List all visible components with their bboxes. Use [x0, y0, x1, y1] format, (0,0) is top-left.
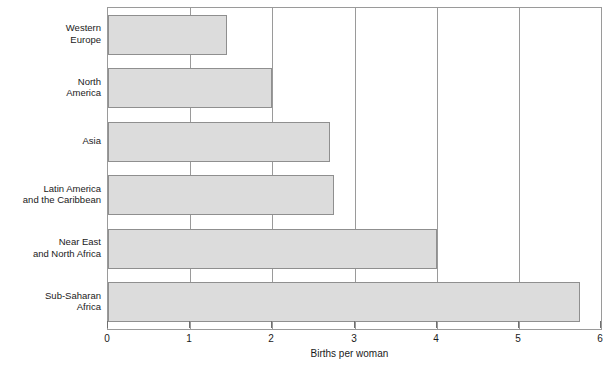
plot-inner — [108, 8, 601, 329]
category-label-asia: Asia — [0, 135, 101, 147]
bar — [108, 15, 227, 55]
x-axis-tick-label: 6 — [585, 333, 614, 345]
gridline — [437, 8, 438, 329]
bar — [108, 282, 580, 322]
x-axis-tick-label: 1 — [174, 333, 204, 345]
x-axis-title: Births per woman — [0, 348, 614, 360]
category-label-near-east: Near East and North Africa — [0, 236, 101, 259]
bar-chart: Western Europe North America Asia Latin … — [0, 0, 614, 374]
category-label-north-america: North America — [0, 76, 101, 99]
category-axis-labels: Western Europe North America Asia Latin … — [0, 7, 101, 328]
category-label-sub-saharan-africa: Sub-Saharan Africa — [0, 290, 101, 313]
x-axis-tick — [600, 321, 601, 328]
gridline — [190, 8, 191, 329]
bar — [108, 175, 334, 215]
gridline — [272, 8, 273, 329]
bar — [108, 229, 437, 269]
x-axis-tick-label: 2 — [256, 333, 286, 345]
bar — [108, 68, 272, 108]
x-axis-tick-label: 3 — [339, 333, 369, 345]
x-axis-tick — [189, 321, 190, 328]
x-axis-tick — [107, 321, 108, 328]
x-axis-tick — [354, 321, 355, 328]
x-axis-tick-label: 4 — [421, 333, 451, 345]
gridline — [355, 8, 356, 329]
x-axis-tick — [518, 321, 519, 328]
gridline — [519, 8, 520, 329]
x-axis-tick — [271, 321, 272, 328]
x-axis-tick — [436, 321, 437, 328]
category-label-western-europe: Western Europe — [0, 22, 101, 45]
category-label-latin-america: Latin America and the Caribbean — [0, 183, 101, 206]
plot-area — [107, 7, 602, 330]
bar — [108, 122, 330, 162]
x-axis-tick-label: 0 — [92, 333, 122, 345]
x-axis-tick-label: 5 — [503, 333, 533, 345]
